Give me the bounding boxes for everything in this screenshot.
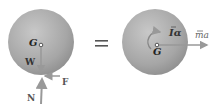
label-i-alpha: Iα	[169, 27, 181, 38]
label-n: N	[27, 93, 35, 103]
label-ma: ma	[195, 30, 209, 40]
equals-sign	[95, 40, 108, 47]
label-w: W	[25, 57, 35, 67]
label-g-right: G	[153, 46, 162, 57]
free-body-diagram	[8, 9, 74, 104]
label-f: F	[62, 77, 68, 87]
center-of-mass-icon	[39, 43, 43, 47]
normal-arrow-icon	[41, 79, 42, 104]
kinetic-diagram	[122, 9, 207, 75]
right-sphere	[122, 9, 188, 75]
label-g-left: G	[29, 37, 38, 48]
